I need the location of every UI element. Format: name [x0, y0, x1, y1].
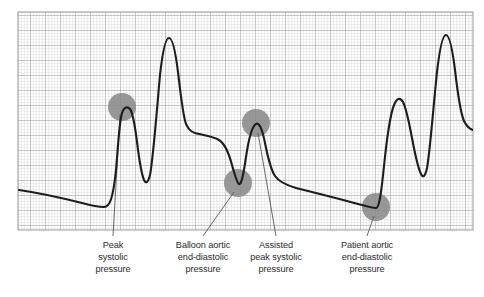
label-line: pressure: [96, 264, 131, 274]
label-line: peak systolic: [250, 252, 302, 262]
label-line: pressure: [186, 264, 221, 274]
label-line: systolic: [98, 252, 128, 262]
label-line: Assisted: [259, 240, 293, 250]
label-line: Peak: [103, 240, 124, 250]
label-line: pressure: [259, 264, 294, 274]
label-line: Patient aortic: [341, 240, 394, 250]
label-line: end-diastolic: [178, 252, 229, 262]
label-line: end-diastolic: [342, 252, 393, 262]
label-line: pressure: [350, 264, 385, 274]
waveform-svg: Peak systolic pressure Balloon aortic en…: [0, 0, 484, 297]
label-line: Balloon aortic: [176, 240, 231, 250]
waveform-figure: Peak systolic pressure Balloon aortic en…: [0, 0, 484, 297]
